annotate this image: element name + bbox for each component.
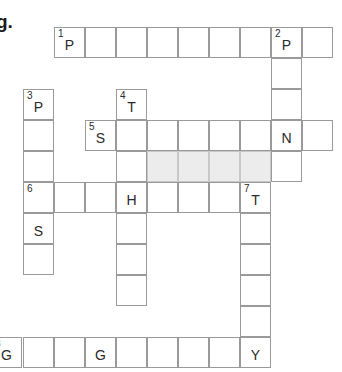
crossword-cell[interactable] [209,120,240,151]
given-letter: T [241,193,270,207]
crossword-cell[interactable] [85,27,116,58]
crossword-cell[interactable] [23,337,54,368]
shaded-cell [209,151,240,182]
given-letter: G [0,348,21,362]
crossword-cell[interactable] [240,244,271,275]
crossword-cell[interactable] [240,27,271,58]
crossword-cell[interactable] [147,337,178,368]
given-letter: S [24,224,53,238]
crossword-cell[interactable] [116,27,147,58]
crossword-cell[interactable] [302,120,333,151]
shaded-cell [240,151,271,182]
given-letter: S [86,131,115,145]
given-letter: N [272,131,301,145]
crossword-cell[interactable] [147,27,178,58]
crossword-cell[interactable]: 2P [271,27,302,58]
crossword-cell[interactable] [178,182,209,213]
crossword-cell[interactable] [116,151,147,182]
crossword-cell[interactable] [240,275,271,306]
crossword-cell[interactable] [240,120,271,151]
crossword-cell[interactable] [302,27,333,58]
given-letter: H [117,193,146,207]
given-letter: Y [241,348,270,362]
clue-number: 6 [27,184,33,194]
crossword-cell[interactable] [209,337,240,368]
crossword-cell[interactable] [178,27,209,58]
crossword-cell[interactable]: 8G [0,337,22,368]
crossword-cell[interactable] [23,244,54,275]
given-letter: P [24,100,53,114]
crossword-cell[interactable]: S [23,213,54,244]
crossword-cell[interactable] [116,275,147,306]
crossword-cell[interactable] [23,151,54,182]
crossword-cell[interactable] [85,182,116,213]
crossword-cell[interactable] [116,120,147,151]
crossword-cell[interactable] [209,27,240,58]
crossword-cell[interactable] [54,182,85,213]
crossword-cell[interactable] [271,151,302,182]
crossword-cell[interactable] [178,337,209,368]
crossword-cell[interactable]: H [116,182,147,213]
given-letter: P [272,38,301,52]
crossword-cell[interactable] [240,213,271,244]
crossword-cell[interactable]: 4T [116,89,147,120]
crossword-cell[interactable]: N [271,120,302,151]
crossword-cell[interactable] [271,89,302,120]
crossword-cell[interactable]: 5S [85,120,116,151]
crossword-cell[interactable] [116,337,147,368]
crossword-cell[interactable]: G [85,337,116,368]
shaded-cell [147,151,178,182]
crossword-cell[interactable] [23,120,54,151]
shaded-cell [178,151,209,182]
crossword-cell[interactable] [116,244,147,275]
crossword-cell[interactable] [147,182,178,213]
crossword-cell[interactable]: 7T [240,182,271,213]
crossword-cell[interactable]: 1P [54,27,85,58]
crossword-cell[interactable] [54,337,85,368]
crossword-cell[interactable] [178,120,209,151]
crossword-cell[interactable] [116,213,147,244]
crossword-cell[interactable]: Y [240,337,271,368]
crossword-cell[interactable] [147,120,178,151]
given-letter: G [86,348,115,362]
crossword-cell[interactable]: 3P [23,89,54,120]
crossword-cell[interactable] [271,58,302,89]
given-letter: P [55,38,84,52]
crossword-cell[interactable] [240,306,271,337]
crossword-grid: 1P2P3PS4T5SN6H7T8GGY [0,0,342,372]
given-letter: T [117,100,146,114]
crossword-cell[interactable] [209,182,240,213]
crossword-cell[interactable]: 6 [23,182,54,213]
